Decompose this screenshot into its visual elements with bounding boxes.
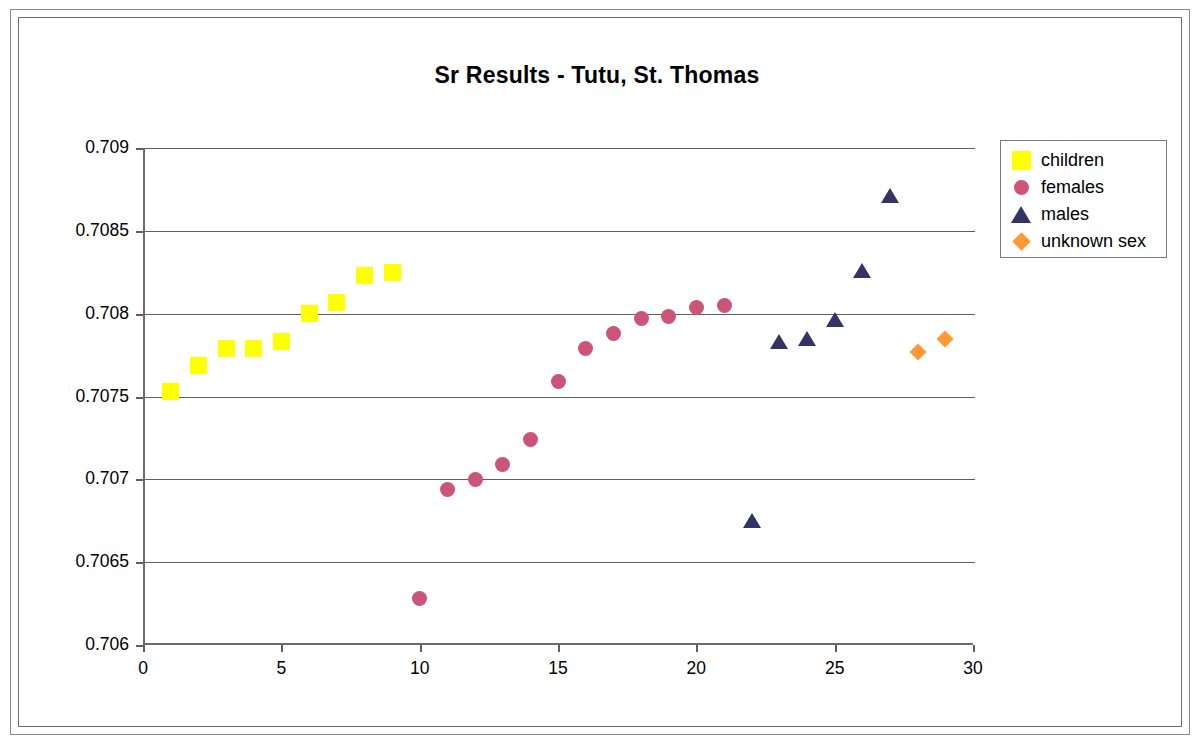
x-tick-mark (143, 645, 145, 652)
x-tick-mark (835, 645, 837, 652)
legend-item-males[interactable]: males (1001, 201, 1168, 228)
data-point-females (689, 300, 704, 315)
x-tick-mark (973, 645, 975, 652)
x-tick-mark (558, 645, 560, 652)
y-axis-tick-label: 0.708 (85, 303, 129, 324)
data-point-females (606, 326, 621, 341)
x-tick-mark (281, 645, 283, 652)
legend-item-label: children (1041, 150, 1104, 171)
y-gridline (145, 479, 975, 480)
y-tick-mark (136, 314, 143, 316)
data-point-males (826, 312, 844, 327)
plot-area (143, 148, 973, 645)
data-point-children (328, 294, 345, 311)
x-axis-tick-label: 0 (103, 658, 183, 679)
legend-item-children[interactable]: children (1001, 147, 1168, 174)
legend-swatch-wrap (1001, 151, 1041, 170)
data-point-females (440, 482, 455, 497)
y-tick-mark (136, 479, 143, 481)
data-point-males (770, 334, 788, 349)
y-axis-tick-label: 0.706 (85, 634, 129, 655)
x-axis-tick-label: 25 (795, 658, 875, 679)
chart-title: Sr Results - Tutu, St. Thomas (0, 62, 1198, 89)
square-marker-icon (1012, 151, 1031, 170)
data-point-children (384, 264, 401, 281)
y-axis-tick-label: 0.707 (85, 468, 129, 489)
legend-swatch-wrap (1001, 235, 1041, 248)
y-tick-mark (136, 231, 143, 233)
data-point-females (495, 457, 510, 472)
y-tick-mark (136, 397, 143, 399)
data-point-males (881, 188, 899, 203)
legend-item-label: females (1041, 177, 1104, 198)
data-point-females (717, 298, 732, 313)
data-point-females (634, 311, 649, 326)
data-point-children (218, 340, 235, 357)
y-axis-tick-label: 0.709 (85, 137, 129, 158)
diamond-marker-icon (1012, 232, 1030, 250)
data-point-females (468, 472, 483, 487)
data-point-males (798, 331, 816, 346)
legend-swatch-wrap (1001, 180, 1041, 195)
x-axis-tick-label: 20 (656, 658, 736, 679)
data-point-males (853, 263, 871, 278)
y-gridline (145, 148, 975, 149)
x-axis-tick-label: 10 (380, 658, 460, 679)
y-gridline (145, 314, 975, 315)
legend-item-unknown-sex[interactable]: unknown sex (1001, 228, 1168, 255)
x-axis-tick-label: 5 (241, 658, 321, 679)
legend-item-label: males (1041, 204, 1089, 225)
triangle-marker-icon (1011, 206, 1031, 223)
x-tick-mark (696, 645, 698, 652)
y-tick-mark (136, 562, 143, 564)
circle-marker-icon (1014, 180, 1029, 195)
x-axis-tick-label: 15 (518, 658, 598, 679)
data-point-males (743, 513, 761, 528)
y-gridline (145, 231, 975, 232)
y-axis-tick-label: 0.7065 (75, 551, 129, 572)
y-tick-mark (136, 148, 143, 150)
data-point-females (551, 374, 566, 389)
chart-legend: childrenfemalesmalesunknown sex (1000, 140, 1167, 258)
y-axis-tick-label: 0.7075 (75, 386, 129, 407)
data-point-children (301, 305, 318, 322)
x-tick-mark (420, 645, 422, 652)
y-gridline (145, 562, 975, 563)
legend-item-females[interactable]: females (1001, 174, 1168, 201)
data-point-children (162, 383, 179, 400)
data-point-children (273, 333, 290, 350)
data-point-children (356, 267, 373, 284)
legend-swatch-wrap (1001, 206, 1041, 223)
x-axis-tick-label: 30 (933, 658, 1013, 679)
data-point-children (245, 340, 262, 357)
data-point-children (190, 357, 207, 374)
data-point-females (523, 432, 538, 447)
y-axis-tick-label: 0.7085 (75, 220, 129, 241)
y-gridline (145, 397, 975, 398)
y-tick-mark (136, 645, 143, 647)
legend-item-label: unknown sex (1041, 231, 1146, 252)
